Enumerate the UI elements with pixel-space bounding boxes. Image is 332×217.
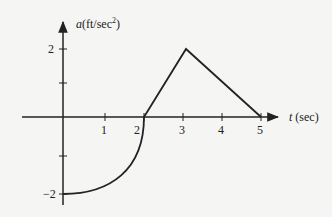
x-tick-label-4: 4 <box>218 123 224 137</box>
x-tick-label-5: 5 <box>257 123 263 137</box>
x-tick-label-1: 1 <box>101 123 107 137</box>
y-tick-label-2: 2 <box>48 42 54 56</box>
x-tick-label-3: 3 <box>179 123 185 137</box>
acceleration-chart: 1 2 3 4 5 2 −2 a(ft/sec2) t (sec) <box>0 0 332 217</box>
y-axis-label: a(ft/sec2) <box>76 16 120 31</box>
x-tick-label-2: 2 <box>134 123 140 137</box>
y-tick-label-neg2: −2 <box>43 187 56 201</box>
acceleration-curve <box>63 49 261 194</box>
x-axis-label: t (sec) <box>289 110 319 124</box>
